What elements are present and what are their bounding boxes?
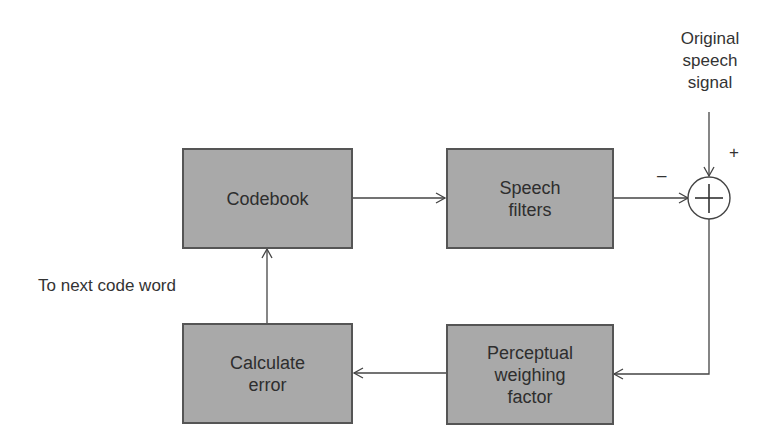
speech-filters-label-line2: filters xyxy=(508,199,551,221)
speech-filters-block: Speech filters xyxy=(446,148,614,249)
calculate-error-label-line2: error xyxy=(248,374,286,396)
plus-sign: + xyxy=(729,142,739,164)
connector-lines xyxy=(0,0,771,447)
calculate-error-block: Calculate error xyxy=(182,323,353,424)
next-code-word-label: To next code word xyxy=(38,275,176,297)
perceptual-label-line3: factor xyxy=(507,386,552,408)
calculate-error-label-line1: Calculate xyxy=(230,352,305,374)
input-label-line3: signal xyxy=(688,72,732,94)
minus-sign: – xyxy=(657,165,666,187)
summing-junction-icon xyxy=(688,177,730,219)
codebook-block: Codebook xyxy=(182,148,353,249)
speech-filters-label-line1: Speech xyxy=(499,177,560,199)
perceptual-label-line1: Perceptual xyxy=(487,342,573,364)
input-label-line1: Original xyxy=(681,28,740,50)
perceptual-label-line2: weighing xyxy=(494,364,565,386)
codebook-label: Codebook xyxy=(226,188,308,210)
input-label-line2: speech xyxy=(683,50,738,72)
perceptual-weighing-block: Perceptual weighing factor xyxy=(446,324,614,425)
input-signal-label: Original speech signal xyxy=(668,28,752,94)
arrow-sum-to-perceptual xyxy=(614,219,709,374)
